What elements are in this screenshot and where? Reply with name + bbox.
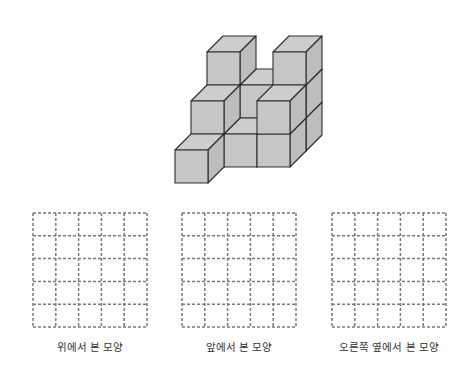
top-view-label: 위에서 본 모양 [57, 339, 124, 354]
front-view-grid [181, 212, 297, 328]
cube-front-face [257, 101, 290, 134]
cube-front-face [175, 150, 208, 183]
cube-front-face [224, 134, 257, 167]
top-view-grid [32, 212, 148, 328]
top-view-grid-lines [32, 212, 148, 328]
right-view-grid [331, 212, 447, 328]
cube-front-face [207, 52, 240, 85]
cube-front-face [273, 52, 306, 85]
front-view-grid-lines [181, 212, 297, 328]
front-view-label: 앞에서 본 모양 [206, 339, 273, 354]
cube-structure-figure [0, 0, 475, 200]
right-view-label: 오른쪽 옆에서 본 모양 [339, 339, 439, 354]
cube-front-face [257, 134, 290, 167]
right-view-grid-lines [331, 212, 447, 328]
cube-front-face [191, 101, 224, 134]
